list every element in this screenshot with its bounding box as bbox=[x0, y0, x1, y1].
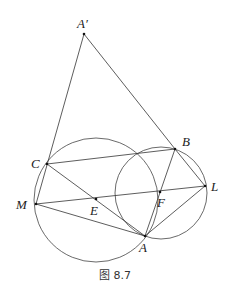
label-F: F bbox=[156, 195, 166, 210]
segment-Aprime-M bbox=[36, 34, 84, 204]
geometry-figure: A′BCMEFLA 图 8.7 bbox=[0, 0, 231, 293]
label-L: L bbox=[210, 179, 218, 194]
figure-caption: 图 8.7 bbox=[99, 269, 131, 282]
segment-B-L bbox=[175, 149, 205, 186]
point-Aprime bbox=[83, 33, 86, 36]
point-C bbox=[46, 163, 49, 166]
segments bbox=[36, 34, 205, 236]
label-M: M bbox=[15, 197, 28, 212]
segment-C-B bbox=[47, 149, 175, 164]
label-C: C bbox=[31, 156, 40, 171]
point-F bbox=[159, 191, 162, 194]
label-E: E bbox=[89, 203, 98, 218]
label-A: A bbox=[138, 240, 147, 255]
point-M bbox=[35, 203, 38, 206]
label-B: B bbox=[182, 134, 190, 149]
label-Aprime: A′ bbox=[76, 16, 88, 31]
point-E bbox=[95, 198, 98, 201]
point-labels: A′BCMEFLA bbox=[15, 16, 218, 255]
segment-M-L bbox=[36, 186, 205, 204]
point-B bbox=[174, 148, 177, 151]
point-A bbox=[144, 235, 147, 238]
segment-Aprime-B bbox=[84, 34, 175, 149]
point-L bbox=[204, 185, 207, 188]
right-circle bbox=[115, 147, 207, 239]
